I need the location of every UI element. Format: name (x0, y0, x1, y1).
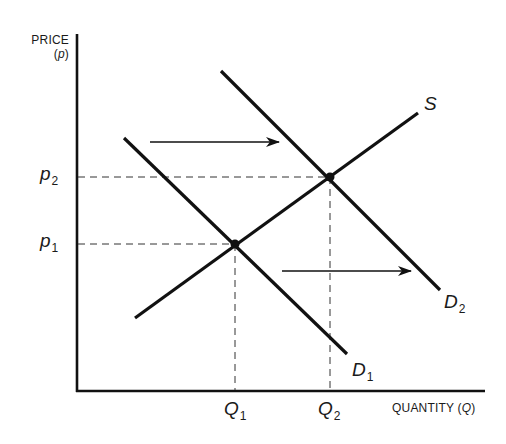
y-axis-title: PRICE (31, 33, 69, 47)
supply-curve-label: S (424, 93, 437, 115)
supply-demand-diagram (0, 0, 506, 444)
tick-label-p1: p1 (40, 230, 58, 255)
x-axis-label: QUANTITY (Q) (392, 401, 476, 415)
demand-curve-1-label: D1 (352, 359, 373, 384)
demand-curve-2-label: D2 (444, 291, 465, 316)
x-axis-symbol: (Q) (458, 401, 476, 415)
tick-label-q1: Q1 (224, 398, 246, 423)
tick-label-p2: p2 (40, 163, 58, 188)
y-axis-label: PRICE (p) (28, 33, 69, 61)
tick-label-q2: Q2 (318, 398, 340, 423)
x-axis-title: QUANTITY (392, 401, 454, 415)
y-axis-symbol: (p) (54, 47, 69, 61)
equilibrium-point-2 (326, 173, 335, 182)
equilibrium-point-1 (231, 240, 240, 249)
